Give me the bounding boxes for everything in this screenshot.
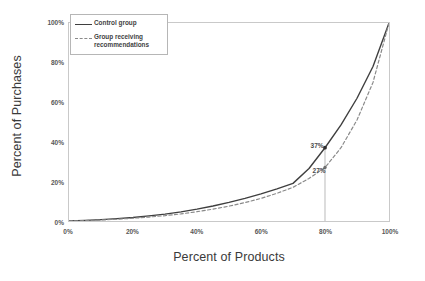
- x-axis-tick-4: 80%: [319, 228, 332, 235]
- y-axis-tick-1: 20%: [30, 179, 64, 186]
- legend-item-recommendations: Group receiving recommendations: [75, 33, 163, 49]
- x-axis-title: Percent of Products: [68, 250, 390, 264]
- x-axis-tick-3: 60%: [255, 228, 268, 235]
- data-label-27-percent: 27%: [313, 167, 326, 174]
- legend-swatch-solid-line-icon: [75, 20, 92, 28]
- data-marker-control-group-80: [323, 146, 327, 150]
- x-axis-tick-1: 20%: [126, 228, 139, 235]
- y-axis-title-text: Percent of Purchases: [10, 55, 24, 177]
- legend-label-control-group: Control group: [94, 19, 137, 27]
- y-axis-tick-labels: 0%20%40%60%80%100%: [30, 0, 64, 281]
- x-axis-tick-0: 0%: [63, 228, 72, 235]
- x-axis-tick-5: 100%: [382, 228, 399, 235]
- x-axis-tick-2: 40%: [190, 228, 203, 235]
- legend-label-recommendations: Group receiving recommendations: [94, 33, 163, 49]
- legend-swatch-dashed-line-icon: [75, 34, 92, 42]
- y-axis-tick-2: 40%: [30, 139, 64, 146]
- chart-legend: Control group Group receiving recommenda…: [70, 14, 168, 55]
- y-axis-title: Percent of Purchases: [4, 0, 30, 232]
- y-axis-tick-0: 0%: [30, 219, 64, 226]
- chart-figure: Percent of Purchases 0%20%40%60%80%100% …: [0, 0, 425, 281]
- legend-item-control-group: Control group: [75, 19, 163, 28]
- data-label-37-percent: 37%: [311, 142, 324, 149]
- y-axis-tick-5: 100%: [30, 19, 64, 26]
- y-axis-tick-3: 60%: [30, 99, 64, 106]
- y-axis-tick-4: 80%: [30, 59, 64, 66]
